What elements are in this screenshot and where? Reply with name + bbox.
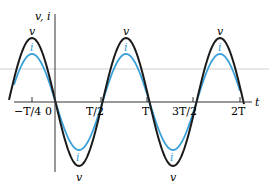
- x-ticks: [32, 97, 240, 102]
- tick-label-three-half-t: 3T/2: [172, 105, 197, 118]
- v-label-peak-2: v: [123, 25, 130, 38]
- tick-label-t: T: [142, 105, 150, 118]
- v-label-peak-3: v: [217, 25, 224, 38]
- v-label-trough-1: v: [76, 171, 83, 184]
- i-label-trough-1: i: [76, 151, 80, 164]
- x-axis-label: t: [255, 96, 260, 109]
- v-label-peak-1: v: [29, 25, 36, 38]
- tick-label-zero: 0: [45, 105, 52, 118]
- i-label-trough-2: i: [170, 151, 174, 164]
- i-label-peak-2: i: [124, 41, 128, 54]
- vi-waveform-diagram: −T/4 0 T/2 T 3T/2 2T v, i t v i v i v i …: [0, 0, 269, 186]
- i-label-peak-1: i: [30, 41, 34, 54]
- tick-label-2t: 2T: [231, 105, 246, 118]
- y-axis-label: v, i: [35, 10, 50, 23]
- tick-label-half-t: T/2: [86, 105, 104, 118]
- v-label-trough-2: v: [170, 171, 177, 184]
- tick-label-neg-quarter-t: −T/4: [14, 105, 41, 118]
- i-label-peak-3: i: [218, 41, 222, 54]
